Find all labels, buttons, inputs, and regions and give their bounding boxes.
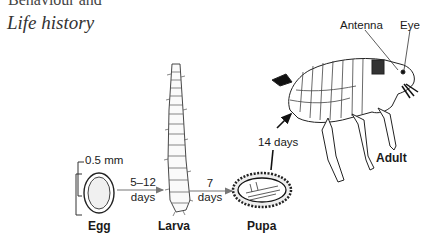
scale-bracket [76,162,84,215]
duration-larva-pupa-top: 7 [193,177,227,189]
annotation-eye: Eye [400,19,420,31]
larva-icon [164,64,193,216]
stage-label-pupa: Pupa [247,220,276,232]
pupa-icon [233,173,291,207]
stage-label-adult: Adult [376,152,407,164]
arrow-pupa-adult-upper [277,114,291,128]
arrow-pupa-adult-lower [271,150,273,170]
stage-label-larva: Larva [158,220,190,232]
stage-label-egg: Egg [88,220,111,232]
annotation-antenna: Antenna [340,19,383,31]
duration-pupa-adult: 14 days [258,136,298,148]
duration-larva-pupa-bottom: days [193,191,227,203]
eye-leader [404,30,410,70]
egg-icon [84,173,114,213]
scale-label: 0.5 mm [85,154,123,166]
duration-egg-larva-bottom: days [126,191,160,203]
duration-egg-larva-top: 5–12 [126,176,160,188]
